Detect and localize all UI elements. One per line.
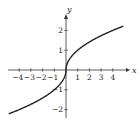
y-tick-label: 2 [58, 26, 63, 35]
y-axis-label: y [66, 5, 72, 14]
y-axis-arrow-icon [64, 14, 68, 19]
x-tick-label: −3 [24, 73, 35, 82]
y-tick-label: −2 [52, 105, 63, 114]
x-axis-arrow-icon [126, 68, 130, 72]
x-tick-label: −4 [12, 73, 23, 82]
x-tick-label: −2 [36, 73, 47, 82]
x-tick-label: 1 [75, 73, 80, 82]
x-tick-label: 3 [99, 73, 104, 82]
x-axis-label: x [132, 66, 137, 75]
x-tick-label: −1 [47, 73, 58, 82]
x-tick-label: 2 [87, 73, 92, 82]
y-tick-label: 1 [58, 46, 63, 55]
function-graph: −4−3−2−11234−2−112 x y [0, 0, 140, 124]
axes [8, 14, 130, 118]
x-tick-label: 4 [110, 73, 115, 82]
